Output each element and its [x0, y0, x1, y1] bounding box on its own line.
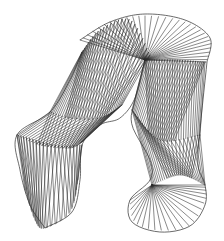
- ruled-line: [55, 43, 89, 114]
- ruled-line: [104, 25, 145, 60]
- ruled-line: [145, 30, 200, 60]
- ruled-line: [152, 185, 198, 216]
- ruled-lines: [17, 16, 211, 230]
- ruled-line: [145, 44, 211, 60]
- ruled-line: [58, 37, 93, 115]
- outline-curve: [15, 52, 82, 228]
- ruled-line: [160, 140, 171, 177]
- ruled-line: [64, 29, 101, 116]
- ruled-line: [42, 143, 48, 228]
- ruled-line: [145, 52, 210, 60]
- ruled-line: [137, 185, 152, 224]
- ruled-line: [48, 115, 59, 146]
- ruled-line: [53, 118, 101, 148]
- ruled-line: [17, 112, 50, 135]
- ruled-line: [43, 142, 46, 227]
- ruled-line: [51, 144, 55, 223]
- string-art-drawing: [0, 0, 224, 241]
- ruled-line: [47, 145, 55, 227]
- ruled-line: [43, 113, 54, 145]
- ruled-line: [68, 108, 118, 148]
- ruled-line: [72, 105, 122, 148]
- ruled-line: [51, 50, 83, 112]
- ruled-line: [145, 27, 196, 60]
- artwork-canvas: [0, 0, 224, 241]
- ruled-line: [184, 138, 188, 176]
- ruled-line: [133, 112, 153, 185]
